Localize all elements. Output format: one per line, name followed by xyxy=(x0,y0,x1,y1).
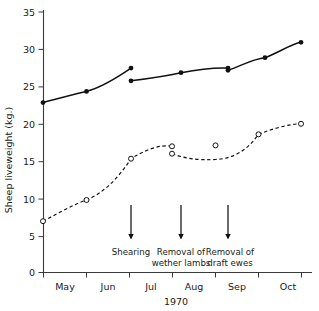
data-point-lambs xyxy=(213,143,218,148)
y-tick-label-35: 35 xyxy=(23,7,35,18)
annotation-wether-lambs-line1: Removal of xyxy=(157,247,206,257)
data-point-lambs xyxy=(170,151,175,156)
series-lambs-line-segment-2 xyxy=(172,124,301,160)
data-point-ewes xyxy=(179,70,184,75)
y-axis-title: Sheep liveweight (kg.) xyxy=(3,107,14,214)
annotation-draft-ewes-line2: draft ewes xyxy=(207,258,253,268)
y-axis-ticks xyxy=(39,12,44,273)
annotation-shearing: Shearing xyxy=(112,247,150,257)
event-annotations: Shearing Removal of wether lambs Removal… xyxy=(112,247,255,268)
data-point-lambs xyxy=(170,144,175,149)
x-tick-label-jun: Jun xyxy=(100,281,116,292)
data-point-lambs xyxy=(84,198,89,203)
annotation-wether-lambs-line2: wether lambs xyxy=(152,258,211,268)
axis-lines xyxy=(43,10,312,273)
series-lambs-line-segment-1 xyxy=(43,146,172,221)
y-tick-label-25: 25 xyxy=(23,81,35,92)
data-point-lambs xyxy=(256,132,261,137)
data-point-ewes xyxy=(129,78,134,83)
x-axis-year-label: 1970 xyxy=(164,296,188,307)
x-tick-label-sep: Sep xyxy=(228,281,246,292)
y-tick-label-30: 30 xyxy=(23,44,35,55)
y-tick-label-0: 0 xyxy=(29,267,35,278)
data-point-ewes xyxy=(263,55,268,60)
data-point-lambs xyxy=(299,121,304,126)
data-point-ewes xyxy=(41,100,46,105)
event-arrows xyxy=(131,205,228,238)
x-axis-ticks xyxy=(44,273,302,278)
data-point-lambs xyxy=(41,219,46,224)
series-lambs xyxy=(41,121,304,223)
y-axis-tick-labels: 35 30 25 20 15 10 5 0 xyxy=(23,7,35,279)
data-point-ewes xyxy=(299,40,304,45)
data-point-ewes xyxy=(226,68,231,73)
x-tick-label-may: May xyxy=(55,281,75,292)
figure-container: 35 30 25 20 15 10 5 0 May Jun Jul Aug Se… xyxy=(0,0,319,311)
x-tick-label-oct: Oct xyxy=(280,281,297,292)
y-tick-label-10: 10 xyxy=(23,194,35,205)
series-ewes-line-segment-1 xyxy=(43,68,131,103)
data-point-ewes xyxy=(84,89,89,94)
data-point-lambs xyxy=(129,156,134,161)
series-ewes xyxy=(41,40,304,105)
x-tick-label-aug: Aug xyxy=(185,281,204,292)
sheep-liveweight-line-chart: 35 30 25 20 15 10 5 0 May Jun Jul Aug Se… xyxy=(0,0,319,311)
x-tick-label-jul: Jul xyxy=(144,281,156,292)
y-tick-label-20: 20 xyxy=(23,119,35,130)
annotation-draft-ewes-line1: Removal of xyxy=(206,247,255,257)
data-point-ewes xyxy=(129,66,134,71)
x-axis-tick-labels: May Jun Jul Aug Sep Oct xyxy=(55,281,296,292)
y-tick-label-5: 5 xyxy=(29,231,35,242)
y-tick-label-15: 15 xyxy=(23,156,35,167)
